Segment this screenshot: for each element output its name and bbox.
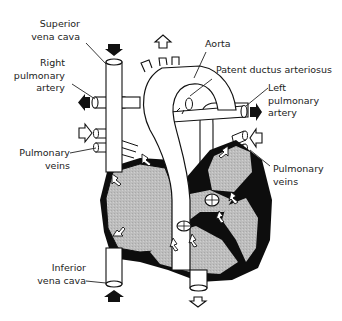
label-inferior-vena-cava: Inferior vena cava bbox=[30, 262, 86, 287]
label-aorta: Aorta bbox=[205, 38, 231, 51]
arrow-up-filled-icon bbox=[104, 290, 124, 302]
label-superior-vena-cava: Superior vena cava bbox=[30, 18, 80, 43]
label-pulmonary-veins-left: Pulmonary veins bbox=[8, 147, 70, 172]
label-pulmonary-veins-right: Pulmonary veins bbox=[273, 163, 324, 188]
label-line: artery bbox=[10, 82, 65, 95]
label-line: vena cava bbox=[30, 275, 86, 288]
arrow-left-outline-icon bbox=[250, 129, 262, 147]
label-line: vena cava bbox=[30, 31, 80, 44]
label-line: Pulmonary bbox=[273, 163, 324, 176]
arrow-right-filled-icon bbox=[250, 103, 262, 121]
label-line: Left bbox=[268, 82, 319, 95]
arrow-up-outline-icon bbox=[155, 35, 171, 48]
label-line: veins bbox=[273, 176, 324, 189]
label-patent-ductus-arteriosus: Patent ductus arteriosus bbox=[216, 64, 332, 77]
label-line: Patent ductus arteriosus bbox=[216, 64, 332, 77]
label-line: veins bbox=[8, 160, 70, 173]
label-line: Pulmonary bbox=[8, 147, 70, 160]
label-right-pulmonary-artery: Right pulmonary artery bbox=[10, 57, 65, 95]
label-line: artery bbox=[268, 107, 319, 120]
label-line: pulmonary bbox=[268, 95, 319, 108]
label-line: Aorta bbox=[205, 38, 231, 51]
arrow-left-filled-icon bbox=[78, 94, 90, 111]
label-left-pulmonary-artery: Left pulmonary artery bbox=[268, 82, 319, 120]
label-line: Superior bbox=[30, 18, 80, 31]
arrow-right-outline-icon bbox=[79, 124, 92, 142]
label-line: pulmonary bbox=[10, 70, 65, 83]
arrow-down-outline-icon bbox=[190, 297, 206, 307]
label-line: Inferior bbox=[30, 262, 86, 275]
label-line: Right bbox=[10, 57, 65, 70]
arrow-down-filled-icon bbox=[105, 44, 123, 56]
